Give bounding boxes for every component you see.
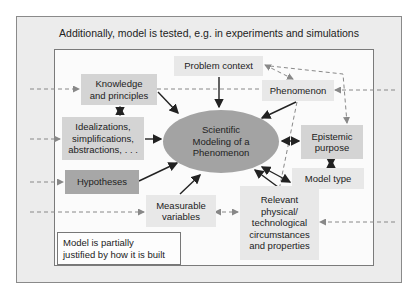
idealizations-node: Idealizations, simplifications, abstract…: [62, 117, 144, 160]
hypotheses-node: Hypotheses: [65, 170, 139, 194]
justification-note: Model is partially justified by how it i…: [57, 232, 181, 265]
knowledge-node: Knowledge and principles: [81, 74, 157, 105]
phenomenon-node: Phenomenon: [262, 80, 334, 101]
scientific-modeling-center: Scientific Modeling of a Phenomenon: [163, 110, 279, 173]
measurable-variables-node: Measurable variables: [146, 195, 216, 227]
problem-context-node: Problem context: [174, 56, 263, 76]
epistemic-purpose-node: Epistemic purpose: [301, 125, 363, 159]
relevant-circumstances-node: Relevant physical/ technological circums…: [240, 186, 319, 260]
